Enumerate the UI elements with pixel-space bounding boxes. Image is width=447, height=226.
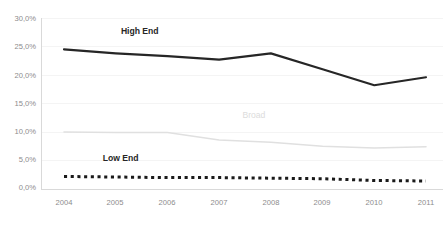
x-tick-label: 2010 xyxy=(366,198,383,207)
y-tick-label: 10,0% xyxy=(14,127,36,136)
x-tick-label: 2006 xyxy=(159,198,176,207)
y-axis-tick-labels: 30,0% 25,0% 20,0% 15,0% 10,0% 5,0% 0,0% xyxy=(14,14,36,192)
x-tick-label: 2007 xyxy=(211,198,228,207)
y-tick-label: 15,0% xyxy=(14,99,36,108)
x-tick-label: 2005 xyxy=(107,198,124,207)
series-line-low-end xyxy=(64,176,426,181)
gridlines-group xyxy=(41,18,443,189)
y-tick-label: 0,0% xyxy=(19,183,37,192)
series-label-low-end: Low End xyxy=(103,153,139,163)
series-label-high-end: High End xyxy=(121,26,159,36)
x-tick-label: 2011 xyxy=(418,198,434,207)
series-line-high-end xyxy=(64,49,426,85)
series-line-broad xyxy=(64,132,426,148)
x-tick-label: 2009 xyxy=(314,198,331,207)
y-tick-label: 5,0% xyxy=(19,155,37,164)
y-tick-label: 30,0% xyxy=(14,14,36,23)
y-tick-label: 20,0% xyxy=(14,71,36,80)
chart-canvas: 30,0% 25,0% 20,0% 15,0% 10,0% 5,0% 0,0% … xyxy=(0,0,447,226)
line-chart-figure: 30,0% 25,0% 20,0% 15,0% 10,0% 5,0% 0,0% … xyxy=(0,0,447,226)
y-tick-label: 25,0% xyxy=(14,42,36,51)
series-label-broad: Broad xyxy=(242,110,265,120)
x-axis-tick-labels: 2004 2005 2006 2007 2008 2009 2010 2011 xyxy=(56,198,435,207)
x-tick-label: 2004 xyxy=(56,198,73,207)
x-tick-label: 2008 xyxy=(263,198,280,207)
